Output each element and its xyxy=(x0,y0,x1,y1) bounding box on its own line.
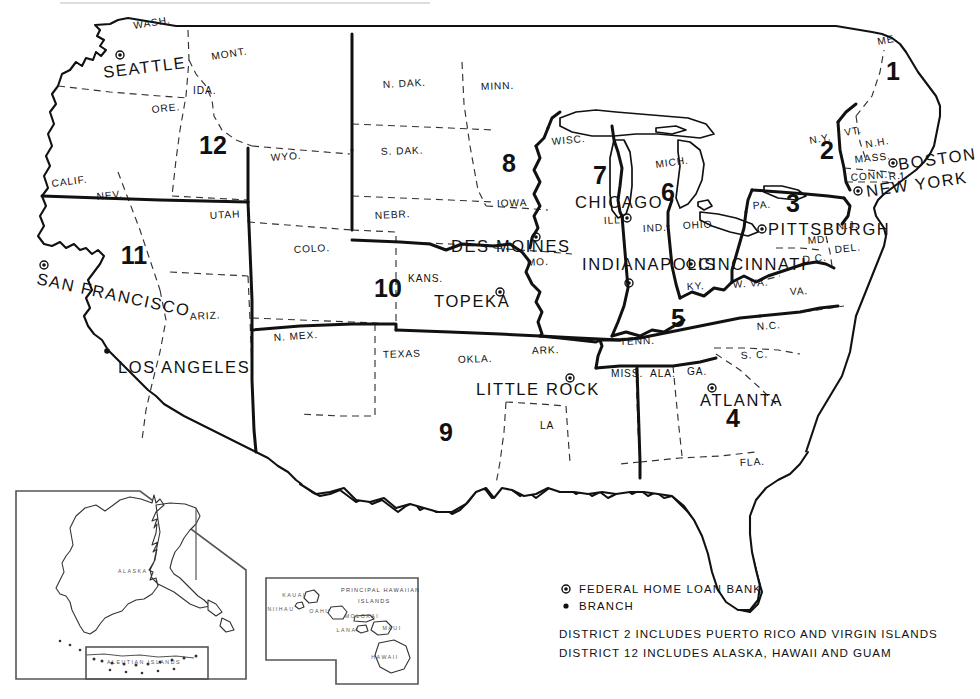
district-number-11: 11 xyxy=(121,241,148,269)
branch-symbol-icon xyxy=(104,348,110,354)
state-label-fla: FLA. xyxy=(740,456,766,468)
state-label-ill: ILL. xyxy=(604,214,625,226)
legend-item-branch: BRANCH xyxy=(563,600,634,612)
district-number-12: 12 xyxy=(199,131,227,159)
district-number-1: 1 xyxy=(886,57,900,85)
bank-city-label-topeka: TOPEKA xyxy=(434,292,510,310)
state-label-kans: KANS. xyxy=(408,273,443,284)
district-number-9: 9 xyxy=(439,418,453,446)
district-number-3: 3 xyxy=(786,189,800,217)
district-number-8: 8 xyxy=(502,149,516,177)
state-label-ida: IDA. xyxy=(193,85,216,96)
hawaii-island-label-kauai: KAUAI xyxy=(282,592,305,598)
state-label-colo: COLO. xyxy=(294,242,331,255)
aleutian-island-dots xyxy=(59,640,198,675)
state-label-wyo: WYO. xyxy=(270,150,301,163)
hawaii-island-label-oahu: OAHU xyxy=(309,608,330,614)
alaska-inset-title: ALASKA xyxy=(118,568,148,574)
state-label-nebr: NEBR. xyxy=(375,208,411,221)
legend-note-district-2: DISTRICT 2 INCLUDES PUERTO RICO AND VIRG… xyxy=(559,627,938,640)
legend-note-district-12: DISTRICT 12 INCLUDES ALASKA, HAWAII AND … xyxy=(559,646,892,659)
state-label-n-c: N.C. xyxy=(756,319,781,332)
state-label-texas: TEXAS xyxy=(383,348,421,360)
bank-city-des-moines: DES MOINES xyxy=(451,233,571,255)
hawaii-inset-title-line1: PRINCIPAL HAWAIIAN xyxy=(341,587,420,593)
bank-city-label-chicago: CHICAGO xyxy=(575,193,663,211)
hawaii-island-label-molokai: MOLOKAI xyxy=(345,613,380,619)
alaska-inset: ALASKA ALEUTIAN ISLANDS xyxy=(16,491,246,679)
legend-label-bank: FEDERAL HOME LOAN BANK xyxy=(579,583,762,595)
district-number-7: 7 xyxy=(593,161,607,189)
state-label-ariz: ARIZ. xyxy=(190,309,221,322)
state-label-tenn: TENN. xyxy=(620,335,655,347)
legend-label-branch: BRANCH xyxy=(579,600,634,612)
bank-city-label-indianapolis: INDIANAPOLIS xyxy=(582,255,717,273)
state-label-ind: IND. xyxy=(643,222,668,234)
branch-city-label-los-angeles: LOS ANGELES xyxy=(118,358,250,376)
bank-city-label-des-moines: DES MOINES xyxy=(451,237,571,255)
legend-item-bank: FEDERAL HOME LOAN BANK xyxy=(562,583,762,595)
branch-symbol-icon xyxy=(563,603,568,608)
state-label-mo: MO. xyxy=(527,256,549,268)
state-label-okla: OKLA. xyxy=(458,353,493,365)
state-label-miss: MISS. xyxy=(611,368,643,379)
state-label-minn: MINN. xyxy=(481,80,515,92)
bank-city-label-little-rock: LITTLE ROCK xyxy=(476,380,600,398)
state-label-va: VA. xyxy=(790,285,809,297)
bank-city-label-pittsburgh: PITTSBURGH xyxy=(768,220,890,238)
state-label-s-dak: S. DAK. xyxy=(381,145,424,157)
island-kauai xyxy=(304,590,319,603)
hawaii-island-label-niihau: NIIHAU xyxy=(268,606,295,612)
bank-city-cincinnati: CINCINNATI xyxy=(687,255,807,273)
map-legend: FEDERAL HOME LOAN BANK BRANCH DISTRICT 2… xyxy=(559,583,938,659)
district-number-2: 2 xyxy=(820,136,834,164)
state-label-ga: GA. xyxy=(687,366,707,377)
map-canvas: WASH.ORE.IDA.MONT.WYO.UTAHNEV.CALIF.ARIZ… xyxy=(0,0,980,699)
bank-city-label-atlanta: ATLANTA xyxy=(700,391,783,409)
fhlb-district-map: WASH.ORE.IDA.MONT.WYO.UTAHNEV.CALIF.ARIZ… xyxy=(0,0,980,699)
state-label-ark: ARK. xyxy=(532,344,560,356)
state-label-ala: ALA. xyxy=(650,368,676,379)
hawaii-island-label-lanai: LANAI xyxy=(337,627,360,633)
state-label-ohio: OHIO xyxy=(683,218,713,231)
state-label-pa: PA. xyxy=(752,199,771,211)
bank-city-label-cincinnati: CINCINNATI xyxy=(698,255,807,273)
state-label-la: LA xyxy=(540,420,554,431)
hawaii-inset: PRINCIPAL HAWAIIAN ISLANDS KAUAINIIHAUOA… xyxy=(266,578,420,684)
hawaii-inset-title-line2: ISLANDS xyxy=(358,598,390,604)
hawaii-island-label-hawaii: HAWAII xyxy=(371,654,398,660)
district-number-10: 10 xyxy=(374,274,402,302)
state-label-utah: UTAH xyxy=(210,208,241,221)
bank-city-topeka: TOPEKA xyxy=(434,288,510,310)
state-label-n-dak: N. DAK. xyxy=(383,77,427,90)
district-number-5: 5 xyxy=(671,304,685,332)
hawaii-island-label-maui: MAUI xyxy=(382,625,401,631)
bank-symbol-icon xyxy=(562,585,570,593)
bank-symbol-icon xyxy=(40,261,48,269)
state-label-ky: KY. xyxy=(687,280,705,292)
bank-city-pittsburgh: PITTSBURGH xyxy=(758,220,890,238)
state-label-iowa: IOWA xyxy=(497,197,528,209)
state-label-s-c: S. C. xyxy=(741,349,769,361)
island-niihau xyxy=(295,602,304,609)
aleutian-islands-label: ALEUTIAN ISLANDS xyxy=(107,659,181,665)
